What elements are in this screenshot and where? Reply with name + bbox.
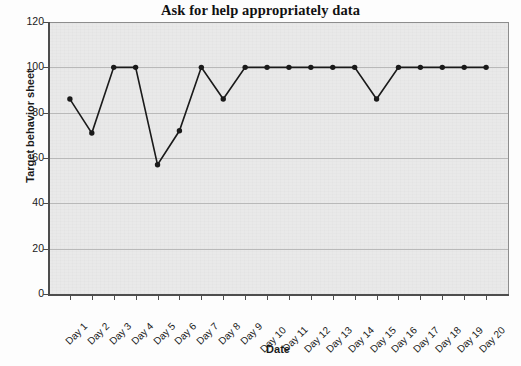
series-line bbox=[70, 67, 486, 164]
x-axis-line bbox=[48, 294, 509, 296]
plot-right-border bbox=[508, 22, 509, 295]
data-point bbox=[440, 65, 445, 70]
y-axis-tick-labels: 020406080100120 bbox=[0, 0, 44, 366]
series-markers bbox=[67, 65, 489, 168]
data-point bbox=[461, 65, 466, 70]
data-series-layer bbox=[48, 22, 508, 294]
y-tick-label: 80 bbox=[4, 106, 44, 118]
data-point bbox=[111, 65, 116, 70]
y-tick-label: 100 bbox=[4, 60, 44, 72]
x-tick-mark bbox=[158, 295, 159, 300]
chart-title: Ask for help appropriately data bbox=[0, 2, 521, 19]
data-point bbox=[308, 65, 313, 70]
data-point bbox=[286, 65, 291, 70]
x-tick-mark bbox=[398, 295, 399, 300]
x-tick-mark bbox=[355, 295, 356, 300]
y-tick-label: 60 bbox=[4, 151, 44, 163]
x-tick-mark bbox=[92, 295, 93, 300]
y-tick-label: 120 bbox=[4, 15, 44, 27]
data-point bbox=[221, 96, 226, 101]
x-tick-mark bbox=[464, 295, 465, 300]
x-tick-mark bbox=[201, 295, 202, 300]
x-tick-mark bbox=[420, 295, 421, 300]
data-point bbox=[155, 162, 160, 167]
x-tick-mark bbox=[289, 295, 290, 300]
x-tick-mark bbox=[136, 295, 137, 300]
data-point bbox=[199, 65, 204, 70]
x-tick-mark bbox=[442, 295, 443, 300]
data-point bbox=[396, 65, 401, 70]
data-point bbox=[177, 128, 182, 133]
data-point bbox=[133, 65, 138, 70]
x-tick-mark bbox=[311, 295, 312, 300]
data-point bbox=[89, 130, 94, 135]
x-tick-mark bbox=[179, 295, 180, 300]
x-tick-mark bbox=[486, 295, 487, 300]
data-point bbox=[330, 65, 335, 70]
x-tick-mark bbox=[70, 295, 71, 300]
y-tick-label: 40 bbox=[4, 196, 44, 208]
y-tick-label: 0 bbox=[4, 287, 44, 299]
x-tick-mark bbox=[333, 295, 334, 300]
x-tick-mark bbox=[267, 295, 268, 300]
data-point bbox=[374, 96, 379, 101]
data-point bbox=[483, 65, 488, 70]
x-tick-mark bbox=[223, 295, 224, 300]
x-tick-mark bbox=[245, 295, 246, 300]
y-tick-label: 20 bbox=[4, 242, 44, 254]
x-tick-mark bbox=[377, 295, 378, 300]
data-point bbox=[352, 65, 357, 70]
data-point bbox=[242, 65, 247, 70]
data-point bbox=[264, 65, 269, 70]
y-tick-mark bbox=[43, 294, 48, 295]
line-chart: Ask for help appropriately data Target b… bbox=[0, 0, 521, 366]
x-tick-mark bbox=[114, 295, 115, 300]
x-axis-title: Date bbox=[48, 343, 508, 355]
data-point bbox=[418, 65, 423, 70]
data-point bbox=[67, 96, 72, 101]
